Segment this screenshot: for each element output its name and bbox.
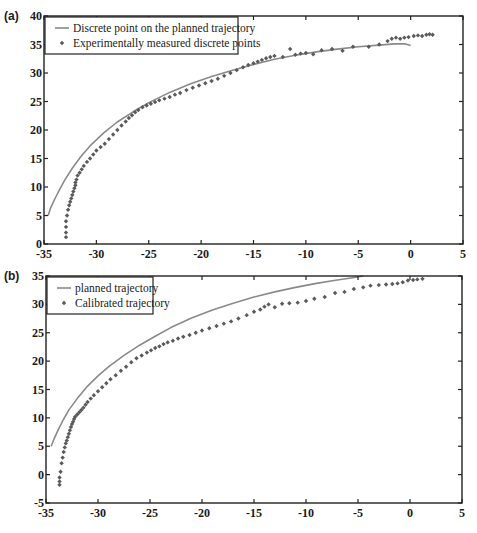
- data-marker: [88, 156, 92, 160]
- data-marker: [71, 189, 75, 193]
- x-tick-label: -5: [353, 506, 363, 520]
- data-marker: [82, 164, 86, 168]
- data-marker: [207, 326, 211, 330]
- data-marker: [57, 475, 61, 479]
- data-marker: [264, 56, 268, 60]
- data-marker: [406, 35, 410, 39]
- data-marker: [280, 302, 284, 306]
- data-marker: [68, 428, 72, 432]
- data-marker: [194, 331, 198, 335]
- x-tick-label: -10: [298, 506, 314, 520]
- data-marker: [323, 295, 327, 299]
- x-tick-label: -30: [88, 247, 104, 261]
- data-marker: [342, 290, 346, 294]
- data-marker: [352, 287, 356, 291]
- y-tick-label: 20: [32, 354, 44, 368]
- data-marker: [416, 33, 420, 37]
- data-marker: [252, 310, 256, 314]
- data-marker: [262, 304, 266, 308]
- data-marker: [161, 342, 165, 346]
- data-marker: [173, 92, 177, 96]
- data-marker: [124, 365, 128, 369]
- data-marker: [85, 160, 89, 164]
- data-marker: [401, 280, 405, 284]
- data-marker: [129, 360, 133, 364]
- data-marker: [214, 324, 218, 328]
- legend-item: Calibrated trajectory: [62, 297, 170, 310]
- data-marker: [60, 455, 64, 459]
- legend-label: Calibrated trajectory: [75, 297, 170, 310]
- y-tick-label: 0: [38, 468, 44, 482]
- data-marker: [59, 461, 63, 465]
- data-marker: [312, 297, 316, 301]
- data-marker: [94, 148, 98, 152]
- data-marker: [390, 282, 394, 286]
- data-marker: [411, 278, 415, 282]
- data-marker: [368, 283, 372, 287]
- y-tick-label: 5: [38, 439, 44, 453]
- data-marker: [191, 86, 195, 90]
- data-marker: [398, 37, 402, 41]
- data-marker: [395, 281, 399, 285]
- x-tick-label: -20: [194, 506, 210, 520]
- data-marker: [222, 74, 226, 78]
- legend: Discrete point on the planned trajectory…: [45, 17, 261, 54]
- x-tick-label: -15: [246, 247, 262, 261]
- data-marker: [61, 450, 65, 454]
- data-marker: [415, 277, 419, 281]
- data-marker: [266, 302, 270, 306]
- data-marker: [430, 33, 434, 37]
- panel-b-chart: -35-30-25-20-15-10-505-505101520253035(b…: [4, 269, 465, 520]
- data-marker: [272, 54, 276, 58]
- legend-label: planned trajectory: [75, 282, 159, 295]
- x-tick-label: -20: [193, 247, 209, 261]
- data-marker: [390, 37, 394, 41]
- data-marker: [96, 389, 100, 393]
- data-marker: [67, 203, 71, 207]
- data-marker: [377, 283, 381, 287]
- data-marker: [69, 196, 73, 200]
- y-tick-label: 5: [36, 209, 42, 223]
- data-marker: [287, 301, 291, 305]
- figure-canvas: -35-30-25-20-15-10-5050510152025303540(a…: [0, 0, 477, 533]
- data-marker: [229, 319, 233, 323]
- data-marker: [66, 435, 70, 439]
- y-tick-label: 30: [32, 297, 44, 311]
- legend-item: Discrete point on the planned trajectory: [55, 22, 256, 35]
- data-marker: [165, 340, 169, 344]
- y-tick-label: 25: [32, 326, 44, 340]
- data-marker: [203, 81, 207, 85]
- panel-label: (b): [4, 269, 19, 283]
- legend-label: Discrete point on the planned trajectory: [73, 22, 256, 35]
- y-tick-label: 25: [30, 95, 42, 109]
- y-tick-label: 10: [30, 180, 42, 194]
- data-marker: [111, 132, 115, 136]
- figure: -35-30-25-20-15-10-5050510152025303540(a…: [0, 0, 477, 533]
- data-marker: [222, 321, 226, 325]
- data-marker: [124, 119, 128, 123]
- data-marker: [115, 128, 119, 132]
- data-marker: [402, 35, 406, 39]
- data-marker: [385, 39, 389, 43]
- x-tick-label: 5: [459, 506, 465, 520]
- data-marker: [64, 225, 68, 229]
- x-tick-label: -25: [142, 506, 158, 520]
- y-tick-label: 20: [30, 123, 42, 137]
- panel-label: (a): [4, 9, 19, 23]
- data-marker: [153, 346, 157, 350]
- data-marker: [209, 79, 213, 83]
- data-marker: [98, 145, 102, 149]
- data-marker: [57, 479, 61, 483]
- x-tick-label: -30: [90, 506, 106, 520]
- data-marker: [162, 96, 166, 100]
- data-marker: [171, 338, 175, 342]
- legend-item: Experimentally measured discrete points: [60, 37, 261, 50]
- data-marker: [145, 350, 149, 354]
- data-marker: [92, 393, 96, 397]
- line-series: [48, 44, 410, 216]
- legend: planned trajectoryCalibrated trajectory: [47, 277, 170, 314]
- data-marker: [377, 42, 381, 46]
- data-marker: [108, 377, 112, 381]
- data-marker: [113, 373, 117, 377]
- data-marker: [241, 65, 245, 69]
